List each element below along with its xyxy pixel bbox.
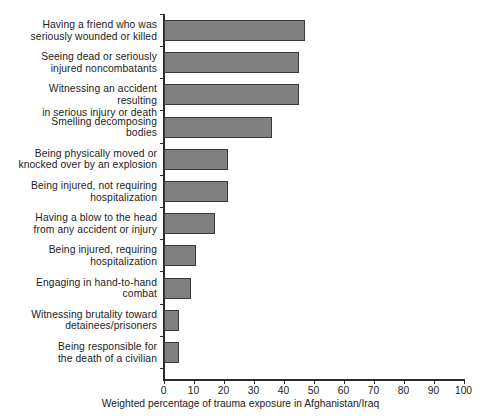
bar-category-label-line: Being injured, requiring <box>7 244 157 256</box>
bar-category-label-line: detainees/prisoners <box>7 320 157 332</box>
bar-category-label-line: Having a blow to the head <box>7 212 157 224</box>
x-axis-tick <box>224 380 225 384</box>
x-axis-tick-label: 50 <box>308 385 319 397</box>
bar-category-label: Being injured, requiringhospitalization <box>7 244 157 267</box>
bar-category-label: Smelling decomposingbodies <box>7 116 157 139</box>
x-axis-tick <box>434 380 435 384</box>
bar <box>164 245 196 266</box>
bar-category-label-line: seriously wounded or killed <box>7 31 157 43</box>
bar-category-label: Having a friend who wasseriously wounded… <box>7 19 157 42</box>
bar-category-label-line: Engaging in hand-to-hand <box>7 277 157 289</box>
bar-row: Being physically moved orknocked over by… <box>0 144 481 176</box>
bar <box>164 20 305 41</box>
bar-category-label: Seeing dead or seriouslyinjured noncomba… <box>7 51 157 74</box>
y-axis-tick <box>160 14 164 15</box>
x-axis-tick <box>254 380 255 384</box>
bar-category-label-line: Witnessing brutality toward <box>7 309 157 321</box>
bar-category-label-line: Witnessing an accident resulting <box>7 83 157 106</box>
bar-row: Witnessing brutality towarddetainees/pri… <box>0 305 481 337</box>
plot-area: Having a friend who wasseriously wounded… <box>0 0 481 420</box>
x-axis-tick <box>314 380 315 384</box>
bar-row: Engaging in hand-to-handcombat <box>0 273 481 305</box>
bar-category-label: Engaging in hand-to-handcombat <box>7 277 157 300</box>
x-axis-tick-label: 70 <box>368 385 379 397</box>
bar-category-label-line: bodies <box>7 127 157 139</box>
bar-category-label-line: knocked over by an explosion <box>7 159 157 171</box>
x-axis-tick <box>464 380 465 384</box>
bar <box>164 278 192 299</box>
bar-category-label: Being physically moved orknocked over by… <box>7 148 157 171</box>
x-axis-title: Weighted percentage of trauma exposure i… <box>0 398 481 410</box>
x-axis-tick <box>284 380 285 384</box>
bar-category-label-line: Seeing dead or seriously <box>7 51 157 63</box>
x-axis-tick-label: 10 <box>188 385 199 397</box>
y-axis-tick <box>160 368 164 369</box>
bar-row: Having a blow to the headfrom any accide… <box>0 208 481 240</box>
bar-category-label-line: hospitalization <box>7 256 157 268</box>
bar-category-label-line: hospitalization <box>7 192 157 204</box>
bar-row: Being responsible forthe death of a civi… <box>0 337 481 369</box>
bar <box>164 84 299 105</box>
bar <box>164 52 299 73</box>
bar-category-label-line: combat <box>7 288 157 300</box>
x-axis-tick <box>374 380 375 384</box>
x-axis-tick-label: 100 <box>455 385 472 397</box>
bar-category-label-line: Being responsible for <box>7 341 157 353</box>
bar <box>164 342 179 363</box>
x-axis-tick-label: 30 <box>248 385 259 397</box>
bar-category-label-line: the death of a civilian <box>7 353 157 365</box>
bar-category-label: Having a blow to the headfrom any accide… <box>7 212 157 235</box>
bar <box>164 117 272 138</box>
bar-row: Being injured, not requiringhospitalizat… <box>0 176 481 208</box>
x-axis-tick-label: 40 <box>278 385 289 397</box>
x-axis-tick-label: 90 <box>428 385 439 397</box>
bar-row: Being injured, requiringhospitalization <box>0 240 481 272</box>
x-axis-tick <box>344 380 345 384</box>
bar-category-label-line: injured noncombatants <box>7 63 157 75</box>
x-axis-tick <box>194 380 195 384</box>
bar-category-label-line: Being injured, not requiring <box>7 180 157 192</box>
bar-category-label: Being responsible forthe death of a civi… <box>7 341 157 364</box>
bar-category-label: Being injured, not requiringhospitalizat… <box>7 180 157 203</box>
bar <box>164 310 179 331</box>
bar-category-label: Witnessing brutality towarddetainees/pri… <box>7 309 157 332</box>
bar-category-label-line: from any accident or injury <box>7 224 157 236</box>
bar <box>164 149 229 170</box>
x-axis-tick <box>404 380 405 384</box>
x-axis-tick-label: 60 <box>338 385 349 397</box>
bar <box>164 181 229 202</box>
x-axis-tick-label: 0 <box>161 385 167 397</box>
x-axis-tick-label: 20 <box>218 385 229 397</box>
bar-category-label-line: Having a friend who was <box>7 19 157 31</box>
x-axis-tick-label: 80 <box>398 385 409 397</box>
bar-category-label-line: Smelling decomposing <box>7 116 157 128</box>
bar-chart: Having a friend who wasseriously wounded… <box>0 0 481 420</box>
bar <box>164 213 215 234</box>
bar-category-label-line: Being physically moved or <box>7 148 157 160</box>
x-axis-tick <box>164 380 165 384</box>
